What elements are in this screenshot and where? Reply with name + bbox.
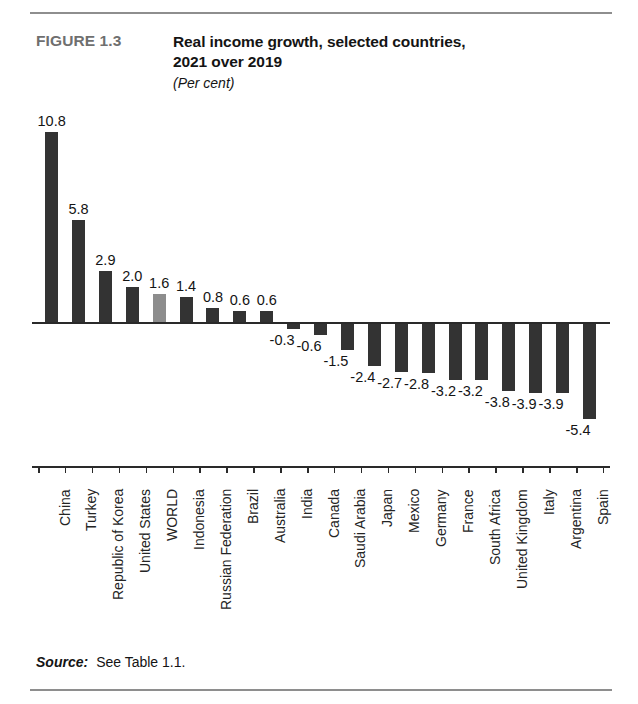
axis-tick [468,466,470,473]
category-label-france: France [461,489,475,533]
bar-russian-federation[interactable] [206,308,219,322]
bar-spain[interactable] [583,324,596,419]
axis-tick [280,466,282,473]
category-label-australia: Australia [273,489,287,543]
category-label-china: China [58,489,72,526]
category-label-world: WORLD [165,489,179,541]
category-label-south-africa: South Africa [488,490,502,566]
axis-tick [334,466,336,473]
value-label-australia: 0.6 [257,293,277,308]
axis-tick [522,466,524,473]
category-label-turkey: Turkey [84,489,98,531]
bar-italy[interactable] [529,324,542,393]
value-label-france: -3.2 [431,384,456,399]
axis-tick [307,466,309,473]
value-label-united-kingdom: -3.8 [485,395,510,410]
axis-tick [253,466,255,473]
figure-subtitle-units: (Per cent) [173,74,613,92]
bottom-rule [30,689,612,691]
value-label-germany: -2.8 [404,377,429,392]
axis-tick [415,466,417,473]
bar-republic-of-korea[interactable] [99,271,112,322]
bar-japan[interactable] [368,324,381,366]
category-label-brazil: Brazil [246,489,260,524]
value-label-south-africa: -3.2 [458,384,483,399]
axis-tick [495,466,497,473]
axis-tick [388,466,390,473]
value-label-brazil: 0.6 [230,293,250,308]
bar-brazil[interactable] [233,311,246,322]
axis-tick [38,466,40,473]
value-label-united-states: 2.0 [122,269,142,284]
category-label-argentina: Argentina [569,489,583,549]
axis-tick [361,466,363,473]
category-label-republic-of-korea: Republic of Korea [111,489,125,600]
figure-title-line-1: Real income growth, selected countries, [173,32,613,52]
bar-united-states[interactable] [126,287,139,322]
bar-argentina[interactable] [556,324,569,393]
bar-canada[interactable] [314,324,327,335]
bar-united-kingdom[interactable] [502,324,515,391]
bar-world[interactable] [153,294,166,322]
value-label-turkey: 5.8 [68,202,88,217]
source-label: Source: [36,654,88,670]
category-label-germany: Germany [434,489,448,547]
value-label-world: 1.6 [149,276,169,291]
axis-tick [549,466,551,473]
bar-turkey[interactable] [72,220,85,322]
category-label-india: India [300,489,314,519]
bar-australia[interactable] [260,311,273,322]
value-label-china: 10.8 [38,114,66,129]
axis-tick [576,466,578,473]
category-label-russian-federation: Russian Federation [219,489,233,610]
bar-chart-plot: 10.8China5.8Turkey2.9Republic of Korea2.… [0,0,638,704]
figure-number-label: FIGURE 1.3 [36,32,121,50]
value-label-argentina: -3.9 [539,397,564,412]
value-label-india: -0.3 [270,333,295,348]
category-label-japan: Japan [380,489,394,527]
bar-mexico[interactable] [395,324,408,372]
category-label-canada: Canada [327,489,341,538]
source-note: Source:See Table 1.1. [36,654,185,670]
bar-china[interactable] [45,132,58,322]
axis-tick [442,466,444,473]
value-label-republic-of-korea: 2.9 [95,253,115,268]
axis-tick [65,466,67,473]
axis-tick [226,466,228,473]
category-label-indonesia: Indonesia [192,489,206,550]
value-label-spain: -5.4 [566,423,591,438]
value-label-italy: -3.9 [512,397,537,412]
category-label-united-kingdom: United Kingdom [515,489,529,589]
bar-indonesia[interactable] [180,297,193,322]
bar-india[interactable] [287,324,300,329]
bar-south-africa[interactable] [475,324,488,380]
value-label-canada: -0.6 [297,339,322,354]
axis-tick [119,466,121,473]
axis-tick [603,466,605,473]
axis-tick [199,466,201,473]
axis-tick [92,466,94,473]
figure-title-line-2: 2021 over 2019 [173,52,613,72]
category-label-united-states: United States [138,489,152,573]
value-label-japan: -2.4 [350,370,375,385]
value-label-saudi-arabia: -1.5 [323,354,348,369]
figure-title-block: Real income growth, selected countries, … [173,32,613,92]
category-label-mexico: Mexico [407,489,421,533]
category-label-spain: Spain [596,489,610,525]
bar-saudi-arabia[interactable] [341,324,354,350]
category-label-italy: Italy [542,489,556,515]
axis-tick [146,466,148,473]
value-label-russian-federation: 0.8 [203,290,223,305]
category-label-saudi-arabia: Saudi Arabia [353,489,367,568]
value-label-indonesia: 1.4 [176,279,196,294]
bar-france[interactable] [449,324,462,380]
bar-germany[interactable] [422,324,435,373]
axis-tick [173,466,175,473]
value-label-mexico: -2.7 [377,376,402,391]
top-rule [30,12,612,14]
source-value: See Table 1.1. [96,654,185,670]
